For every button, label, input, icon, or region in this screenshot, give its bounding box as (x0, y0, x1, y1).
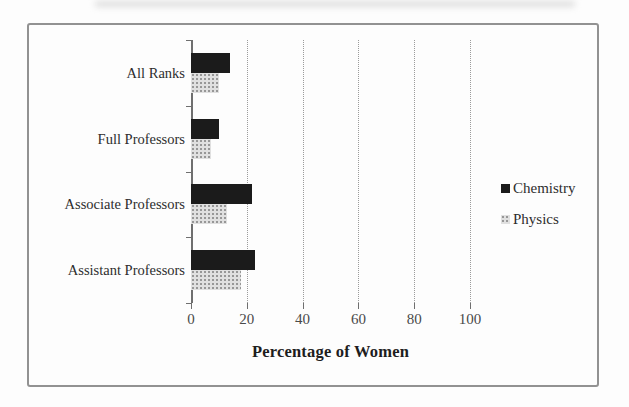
bar-chemistry (191, 53, 230, 73)
x-tick-mark-60 (358, 303, 359, 309)
bar-chemistry (191, 119, 219, 139)
x-tick-mark-40 (303, 303, 304, 309)
y-tick-mark-4 (186, 303, 191, 304)
y-tick-mark-0 (186, 40, 191, 41)
bar-physics (191, 73, 219, 93)
x-tick-label-100: 100 (459, 311, 482, 328)
gridline-40 (303, 40, 304, 303)
legend-label-physics: Physics (513, 211, 559, 228)
x-tick-label-60: 60 (351, 311, 366, 328)
legend-swatch-chemistry (501, 184, 510, 193)
category-label: Full Professors (18, 130, 185, 148)
x-tick-label-20: 20 (239, 311, 254, 328)
legend-swatch-physics (501, 215, 510, 224)
legend-label-chemistry: Chemistry (513, 180, 576, 197)
bar-chemistry (191, 250, 255, 270)
legend-item-physics: Physics (501, 211, 576, 228)
bar-physics (191, 139, 211, 159)
category-label: All Ranks (18, 64, 185, 82)
x-tick-mark-20 (247, 303, 248, 309)
legend-item-chemistry: Chemistry (501, 180, 576, 197)
x-tick-label-40: 40 (295, 311, 310, 328)
x-tick-labels: 020406080100 (191, 311, 470, 329)
category-label: Associate Professors (18, 195, 185, 213)
x-tick-mark-0 (191, 303, 192, 309)
gridline-100 (470, 40, 471, 303)
plot-area (191, 40, 470, 303)
x-tick-mark-80 (414, 303, 415, 309)
x-axis-title: Percentage of Women (181, 342, 480, 362)
y-tick-mark-2 (186, 172, 191, 173)
bar-physics (191, 270, 241, 290)
bar-chemistry (191, 184, 252, 204)
x-tick-label-80: 80 (407, 311, 422, 328)
chart-image: All RanksFull ProfessorsAssociate Profes… (0, 0, 629, 407)
bar-physics (191, 204, 227, 224)
legend: ChemistryPhysics (501, 180, 576, 242)
x-tick-label-0: 0 (187, 311, 195, 328)
y-tick-mark-1 (186, 106, 191, 107)
x-tick-mark-100 (470, 303, 471, 309)
category-axis-labels: All RanksFull ProfessorsAssociate Profes… (18, 40, 185, 303)
scan-artifact (95, 1, 575, 7)
category-label: Assistant Professors (18, 261, 185, 279)
gridline-80 (414, 40, 415, 303)
gridline-60 (358, 40, 359, 303)
y-tick-mark-3 (186, 237, 191, 238)
